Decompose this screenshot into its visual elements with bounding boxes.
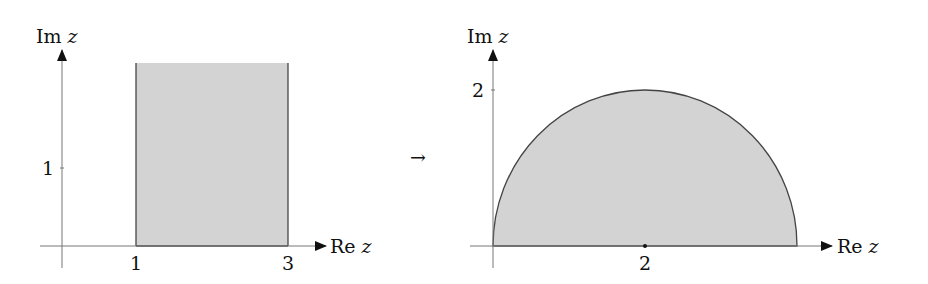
y-tick-label: 2 [472,79,484,101]
x-tick-label: 2 [639,252,651,274]
mapping-arrow: → [410,146,426,168]
x-tick-label-3: 3 [282,252,294,274]
x-axis-label: Re z [330,235,373,257]
x-tick-label-1: 1 [130,252,142,274]
half-disk-region [493,90,797,246]
strip-region [136,63,288,246]
y-tick-label: 1 [42,157,54,179]
x-axis-label: Re z [837,235,880,257]
center-point [643,244,647,248]
y-axis-label: Im z [36,25,79,47]
y-axis-label: Im z [467,25,510,47]
left-plot: Im z 1 1 3 Re z [36,25,373,274]
diagram-canvas: Im z 1 1 3 Re z → Im z 2 2 Re z [0,0,928,284]
right-plot: Im z 2 2 Re z [467,25,880,274]
